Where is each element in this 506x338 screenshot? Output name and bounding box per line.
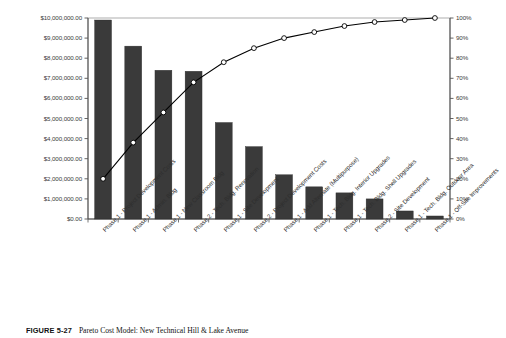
left-axis-tick-label: $5,000,000.00 <box>0 115 82 122</box>
cumulative-point-marker <box>282 36 287 41</box>
right-axis-tick-label: 40% <box>456 135 468 142</box>
left-axis-tick-label: $3,000,000.00 <box>0 155 82 162</box>
left-axis-tick-label: $9,000,000.00 <box>0 34 82 41</box>
left-axis-tick-label: $7,000,000.00 <box>0 74 82 81</box>
cumulative-point-marker <box>252 46 257 51</box>
right-axis-tick-label: 70% <box>456 74 468 81</box>
left-axis-tick-label: $8,000,000.00 <box>0 54 82 61</box>
cumulative-point-marker <box>221 60 226 65</box>
left-axis-tick-label: $6,000,000.00 <box>0 94 82 101</box>
right-axis-tick-label: 60% <box>456 94 468 101</box>
cumulative-point-marker <box>342 24 347 29</box>
right-axis-tick-label: 30% <box>456 155 468 162</box>
cumulative-point-marker <box>131 140 136 145</box>
cumulative-point-marker <box>433 16 438 21</box>
cumulative-point-marker <box>101 176 106 181</box>
bar <box>396 211 413 219</box>
chart-canvas <box>0 0 506 300</box>
left-axis-tick-label: $1,000,000.00 <box>0 195 82 202</box>
right-axis-tick-label: 80% <box>456 54 468 61</box>
figure-caption: FIGURE 5-27Pareto Cost Model: New Techni… <box>26 326 496 335</box>
left-axis-tick-label: $2,000,000.00 <box>0 175 82 182</box>
right-axis-tick-label: 90% <box>456 34 468 41</box>
cumulative-point-marker <box>372 20 377 25</box>
cumulative-point-marker <box>161 110 166 115</box>
pareto-chart: $0.00$1,000,000.00$2,000,000.00$3,000,00… <box>0 0 506 300</box>
figure-caption-text: Pareto Cost Model: New Technical Hill & … <box>79 326 249 335</box>
right-axis-tick-label: 100% <box>456 14 471 21</box>
cumulative-point-marker <box>191 80 196 85</box>
bar <box>95 20 112 219</box>
pareto-figure: $0.00$1,000,000.00$2,000,000.00$3,000,00… <box>0 0 506 338</box>
left-axis-tick-label: $10,000,000.00 <box>0 14 82 21</box>
figure-number: FIGURE 5-27 <box>26 326 72 335</box>
right-axis-tick-label: 50% <box>456 115 468 122</box>
right-axis-tick-label: 0% <box>456 215 465 222</box>
left-axis-tick-label: $4,000,000.00 <box>0 135 82 142</box>
cumulative-point-marker <box>312 30 317 35</box>
cumulative-point-marker <box>402 18 407 23</box>
left-axis-tick-label: $0.00 <box>0 215 82 222</box>
